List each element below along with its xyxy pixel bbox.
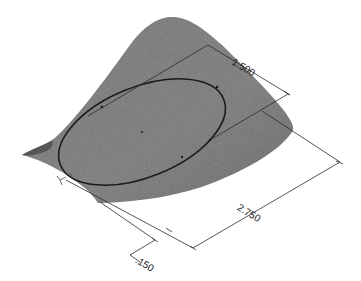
- ellipse-point-bottom: [181, 156, 183, 158]
- dimension-150: [100, 202, 172, 262]
- dimension-label-offset: .150: [134, 254, 157, 274]
- ellipse-center-point: [141, 131, 143, 133]
- ellipse-point-right: [216, 86, 218, 88]
- cad-drawing: 1.500 2.750 .150: [0, 0, 361, 281]
